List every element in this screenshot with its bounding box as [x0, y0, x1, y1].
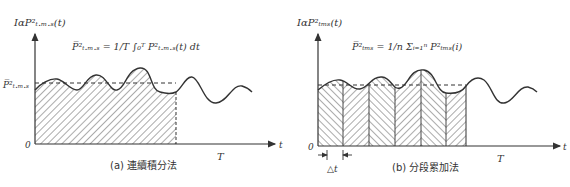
- period-label: T: [497, 153, 505, 164]
- x-axis-label: t: [279, 140, 283, 150]
- y-axis-label: IαP²ₜₘₛ(t): [296, 17, 342, 28]
- hatched-area: [30, 60, 180, 150]
- origin-label: 0: [25, 140, 31, 150]
- diagram-canvas: IαP²ₜ.ₘ.ₛ(t) P̅²ₜ.ₘ.ₛ = 1/T ∫₀ᵀ P²ₜ.ₘ.ₛ(…: [0, 0, 570, 187]
- panel-a: IαP²ₜ.ₘ.ₛ(t) P̅²ₜ.ₘ.ₛ = 1/T ∫₀ᵀ P²ₜ.ₘ.ₛ(…: [2, 17, 283, 171]
- caption-a: (a) 連續積分法: [110, 159, 177, 171]
- panel-b: IαP²ₜₘₛ(t) P̅²ₜₘₛ = 1/n Σᵢ₌₁ⁿ P²ₜₘₛ(i) 0…: [296, 17, 567, 174]
- formula: P̅²ₜₘₛ = 1/n Σᵢ₌₁ⁿ P²ₜₘₛ(i): [351, 41, 463, 52]
- formula: P̅²ₜ.ₘ.ₛ = 1/T ∫₀ᵀ P²ₜ.ₘ.ₛ(t) dt: [71, 41, 200, 52]
- caption-b: (b) 分段累加法: [392, 161, 459, 173]
- delta-t-label: △t: [327, 164, 338, 174]
- period-label: T: [217, 151, 225, 162]
- delta-t-marker: [318, 150, 352, 160]
- y-axis-label: IαP²ₜ.ₘ.ₛ(t): [13, 17, 66, 28]
- origin-label: 0: [308, 142, 314, 152]
- x-axis-label: t: [563, 142, 567, 152]
- hatched-columns: [318, 60, 466, 150]
- mean-label: P̅²ₜ.ₘ.ₛ: [2, 79, 29, 90]
